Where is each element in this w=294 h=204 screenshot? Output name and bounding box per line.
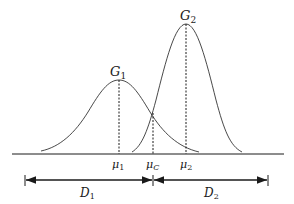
- label-d1: D1: [79, 186, 95, 201]
- label-g2: G2: [180, 8, 196, 25]
- label-mu1: μ1: [112, 158, 124, 172]
- curve-g1: [41, 80, 199, 152]
- curve-g2: [132, 24, 242, 152]
- gaussian-decision-diagram: G1 G2 μ1 μC μ2 D1 D2: [0, 0, 294, 204]
- label-g1: G1: [110, 64, 126, 81]
- label-d2: D2: [203, 186, 219, 201]
- label-mu2: μ2: [180, 158, 192, 172]
- label-muc: μC: [146, 158, 159, 172]
